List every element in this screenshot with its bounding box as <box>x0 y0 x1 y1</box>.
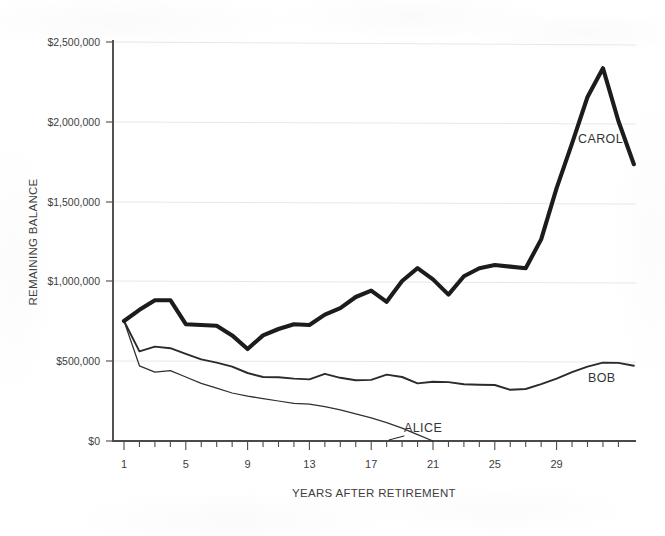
series-line-alice <box>124 321 433 441</box>
series-label-alice: ALICE <box>404 421 442 435</box>
x-tick-label: 17 <box>365 458 377 470</box>
x-axis-tick-labels: 1591317212529 <box>121 458 563 470</box>
y-axis-ticks <box>106 42 113 441</box>
series-label-bob: BOB <box>588 371 616 385</box>
x-tick-label: 21 <box>427 458 439 470</box>
chart-container: $2,500,000 $2,000,000 $1,500,000 $1,000,… <box>0 0 665 536</box>
series-line-carol <box>124 68 634 349</box>
line-chart-plot: $2,500,000 $2,000,000 $1,500,000 $1,000,… <box>0 0 665 536</box>
x-tick-label: 29 <box>550 458 562 470</box>
x-tick-label: 5 <box>183 458 189 470</box>
y-tick-label: $2,000,000 <box>47 116 100 128</box>
x-tick-label: 1 <box>121 458 127 470</box>
series-line-bob <box>124 321 634 390</box>
y-tick-label: $1,000,000 <box>47 275 100 287</box>
x-tick-label: 25 <box>489 458 501 470</box>
data-series-group <box>124 68 634 441</box>
x-axis-title: YEARS AFTER RETIREMENT <box>292 487 456 499</box>
x-tick-label: 13 <box>303 458 315 470</box>
x-tick-label: 9 <box>245 458 251 470</box>
y-tick-label: $500,000 <box>56 355 100 367</box>
y-tick-label: $1,500,000 <box>47 196 100 208</box>
leader-line-alice <box>389 436 404 440</box>
x-axis-ticks <box>124 441 618 450</box>
y-axis-title: REMAINING BALANCE <box>27 178 39 305</box>
gridlines <box>113 42 636 362</box>
y-tick-label: $2,500,000 <box>47 36 100 48</box>
y-axis-tick-labels: $2,500,000 $2,000,000 $1,500,000 $1,000,… <box>47 36 100 447</box>
y-tick-label: $0 <box>88 435 100 447</box>
series-label-carol: CAROL <box>578 132 623 146</box>
